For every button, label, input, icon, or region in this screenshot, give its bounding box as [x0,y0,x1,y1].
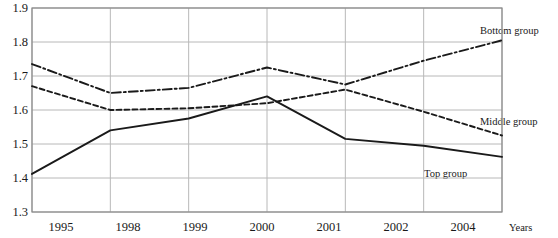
line-chart: 1.9 1.8 1.7 1.6 1.5 1.4 1.3 1995 1998 19… [0,0,558,238]
plot-area [0,0,558,238]
